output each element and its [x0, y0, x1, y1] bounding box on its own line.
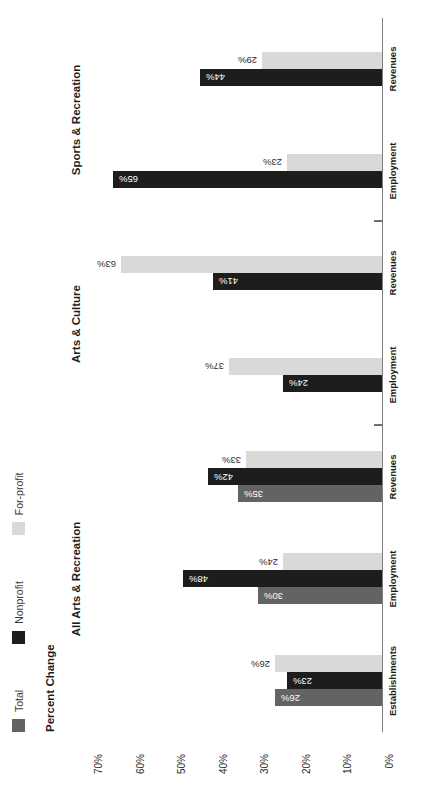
bar-nonprofit[interactable]: 24% — [283, 375, 383, 392]
legend-item-label: For-profit — [13, 473, 25, 516]
bar-for-profit[interactable]: 24% — [283, 554, 383, 571]
bar-for-profit[interactable]: 33% — [246, 452, 383, 469]
bar-value-label: 24% — [289, 378, 308, 389]
bar-value-label: 63% — [97, 259, 116, 270]
bar-for-profit[interactable]: 37% — [229, 358, 383, 375]
bar-total[interactable]: 30% — [258, 588, 383, 605]
legend-swatch-icon — [12, 631, 25, 644]
bar-total[interactable]: 35% — [238, 486, 384, 503]
bar-for-profit[interactable]: 26% — [275, 656, 383, 673]
bar-value-label: 30% — [264, 591, 283, 602]
tick-label: 10% — [342, 754, 353, 774]
category-label: Employment — [387, 142, 398, 199]
tick-label: 0% — [384, 754, 395, 768]
bar-chart-figure: TotalNonprofitFor-profit Percent Change … — [0, 0, 429, 792]
bar-value-label: 24% — [259, 557, 278, 568]
bar-group: 26%23%26% — [92, 630, 383, 732]
bar-group: 24%37% — [92, 324, 383, 426]
chart-rotation-wrapper: TotalNonprofitFor-profit Percent Change … — [0, 0, 429, 792]
bar-nonprofit[interactable]: 48% — [183, 571, 383, 588]
category-label: Employment — [387, 346, 398, 403]
bar-for-profit[interactable]: 29% — [262, 52, 383, 69]
bar-rect — [121, 256, 383, 273]
axis-title: Percent Change — [44, 644, 56, 732]
group-label: All Arts & Recreation — [70, 522, 82, 637]
bar-nonprofit[interactable]: 42% — [208, 469, 383, 486]
bar-group: 30%48%24% — [92, 528, 383, 630]
legend-item-nonprofit[interactable]: Nonprofit — [12, 581, 25, 644]
chart-legend: TotalNonprofitFor-profit — [12, 473, 25, 732]
bar-nonprofit[interactable]: 65% — [113, 171, 383, 188]
bar-group: 65%23% — [92, 120, 383, 222]
category-label: Employment — [387, 550, 398, 607]
bar-rect — [262, 52, 383, 69]
bar-value-label: 26% — [281, 693, 300, 704]
group-labels: All Arts & RecreationArts & CultureSport… — [70, 0, 88, 792]
bar-rect — [213, 273, 383, 290]
legend-item-label: Total — [13, 690, 25, 712]
category-label: Establishments — [387, 646, 398, 716]
category-label: Revenues — [387, 455, 398, 500]
bar-rect — [200, 69, 383, 86]
plot-area: 26%23%26%30%48%24%35%42%33%24%37%41%63%6… — [92, 18, 383, 732]
bar-value-label: 35% — [243, 489, 262, 500]
bar-rect — [283, 554, 383, 571]
bar-nonprofit[interactable]: 44% — [200, 69, 383, 86]
bar-value-label: 41% — [219, 276, 238, 287]
tick-label: 50% — [176, 754, 187, 774]
bar-total[interactable]: 26% — [275, 690, 383, 707]
bar-value-label: 33% — [222, 455, 241, 466]
bar-rect — [113, 171, 383, 188]
legend-item-for-profit[interactable]: For-profit — [12, 473, 25, 536]
tick-label: 70% — [93, 754, 104, 774]
bar-group: 44%29% — [92, 18, 383, 120]
legend-swatch-icon — [12, 719, 25, 732]
bar-rect — [287, 154, 383, 171]
bar-value-label: 48% — [189, 574, 208, 585]
category-label: Revenues — [387, 251, 398, 296]
bar-value-label: 44% — [206, 72, 225, 83]
tick-label: 30% — [259, 754, 270, 774]
legend-item-total[interactable]: Total — [12, 690, 25, 732]
bar-value-label: 23% — [263, 157, 282, 168]
bar-group: 41%63% — [92, 222, 383, 324]
tick-label: 40% — [217, 754, 228, 774]
group-label: Sports & Recreation — [70, 65, 82, 176]
bar-value-label: 26% — [251, 659, 270, 670]
bar-value-label: 23% — [293, 676, 312, 687]
category-labels: EstablishmentsEmploymentRevenuesEmployme… — [387, 18, 401, 732]
bar-rect — [229, 358, 383, 375]
bar-rect — [208, 469, 383, 486]
bar-value-label: 42% — [214, 472, 233, 483]
bar-group: 35%42%33% — [92, 426, 383, 528]
legend-swatch-icon — [12, 522, 25, 535]
bar-for-profit[interactable]: 63% — [121, 256, 383, 273]
bar-nonprofit[interactable]: 23% — [287, 673, 383, 690]
bar-for-profit[interactable]: 23% — [287, 154, 383, 171]
bar-value-label: 29% — [238, 55, 257, 66]
category-label: Revenues — [387, 47, 398, 92]
bar-value-label: 65% — [119, 174, 138, 185]
bar-value-label: 37% — [205, 361, 224, 372]
bar-nonprofit[interactable]: 41% — [213, 273, 383, 290]
axis-baseline — [382, 18, 384, 732]
tick-label: 20% — [300, 754, 311, 774]
plot-inner: 26%23%26%30%48%24%35%42%33%24%37%41%63%6… — [92, 18, 383, 732]
bar-rect — [275, 656, 383, 673]
bar-rect — [183, 571, 383, 588]
legend-item-label: Nonprofit — [13, 581, 25, 624]
tick-label: 60% — [134, 754, 145, 774]
bar-rect — [246, 452, 383, 469]
group-label: Arts & Culture — [70, 285, 82, 363]
